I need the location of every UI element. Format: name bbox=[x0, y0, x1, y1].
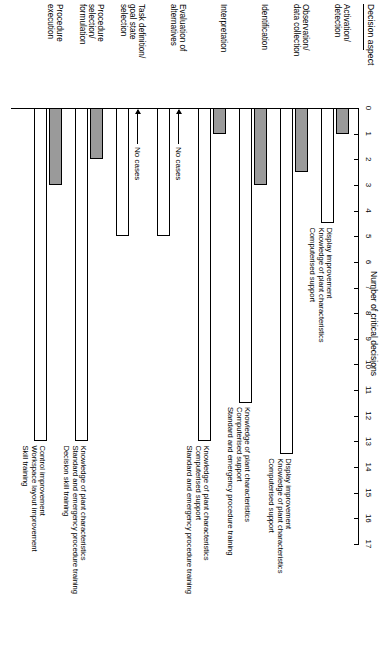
annotation-line: Computerised support bbox=[193, 445, 201, 594]
annotation-line: Computerised support bbox=[267, 458, 275, 573]
category-label: Interpretation bbox=[219, 4, 228, 106]
axis-tick-label: 2 bbox=[364, 157, 373, 161]
category-label-line: detection bbox=[333, 4, 342, 106]
axis-tick bbox=[354, 313, 359, 314]
axis-tick-label: 1 bbox=[364, 131, 373, 135]
annotation-line: Standard and emergency procedure trainin… bbox=[226, 407, 234, 556]
axis-tick bbox=[354, 134, 359, 135]
bar-shaded bbox=[49, 108, 62, 185]
category-label: Activation/detection bbox=[333, 4, 351, 106]
category-label-line: Identification bbox=[260, 4, 269, 106]
category-label: Task definition/goal stateselection bbox=[118, 4, 146, 106]
bar-shaded bbox=[213, 108, 226, 134]
axis-tick bbox=[354, 288, 359, 289]
category-label-line: Evaluation of bbox=[178, 4, 187, 106]
axis-tick-label: 15 bbox=[364, 488, 373, 497]
axis-tick bbox=[354, 211, 359, 212]
axis-tick bbox=[354, 493, 359, 494]
bar-recommendation-annotation: Display improvementKnowledge of plant ch… bbox=[308, 227, 333, 342]
axis-tick bbox=[354, 339, 359, 340]
category-label-line: alternatives bbox=[169, 4, 178, 106]
axis-tick bbox=[354, 518, 359, 519]
annotation-line: Decision skill training bbox=[62, 445, 70, 594]
bar-recommendation-annotation: Display improvementKnowledge of plant ch… bbox=[267, 458, 292, 573]
bar-open bbox=[198, 108, 211, 441]
annotation-line: Skill training bbox=[21, 445, 29, 551]
bar-chart-figure: Decision aspect Activation/detectionObse… bbox=[0, 0, 381, 658]
axis-tick-label: 11 bbox=[364, 386, 373, 394]
category-label-line: Procedure bbox=[55, 4, 64, 106]
value-axis-line bbox=[358, 108, 359, 544]
axis-tick-label: 3 bbox=[364, 183, 373, 187]
axis-tick bbox=[354, 236, 359, 237]
bar-open bbox=[157, 108, 170, 236]
bar-recommendation-annotation: Knowledge of plant characteristicsStanda… bbox=[62, 445, 87, 594]
no-cases-arrow-icon bbox=[178, 110, 179, 144]
no-cases-label: No cases bbox=[174, 147, 183, 180]
annotation-line: Knowledge of plant characteristics bbox=[79, 445, 87, 594]
axis-tick bbox=[354, 364, 359, 365]
bar-open bbox=[34, 108, 47, 441]
annotation-line: Knowledge of plant characteristics bbox=[243, 407, 251, 556]
bar-shaded bbox=[295, 108, 308, 172]
category-label-line: execution bbox=[46, 4, 55, 106]
x-axis-title: Number of critical decisions bbox=[369, 271, 379, 376]
bar-recommendation-annotation: Knowledge of plant characteristicsComput… bbox=[185, 445, 210, 594]
axis-tick bbox=[354, 467, 359, 468]
annotation-line: Knowledge of plant characteristics bbox=[316, 227, 324, 342]
axis-tick bbox=[354, 416, 359, 417]
annotation-line: Knowledge of plant characteristics bbox=[275, 458, 283, 573]
no-cases-label: No cases bbox=[133, 147, 142, 180]
category-label-line: selection bbox=[118, 4, 127, 106]
category-label-line: data collection bbox=[292, 4, 301, 106]
bar-open bbox=[116, 108, 129, 236]
annotation-line: Display improvement bbox=[284, 458, 292, 573]
category-label: Observation/data collection bbox=[292, 4, 310, 106]
category-label-line: Interpretation bbox=[219, 4, 228, 106]
axis-tick-label: 13 bbox=[364, 437, 373, 446]
bar-open bbox=[75, 108, 88, 441]
category-label-column: Activation/detectionObservation/data col… bbox=[0, 0, 381, 108]
axis-tick bbox=[354, 441, 359, 442]
axis-tick bbox=[354, 262, 359, 263]
category-label-line: selection/ bbox=[87, 4, 96, 106]
bar-recommendation-annotation: Knowledge of plant characteristicsComput… bbox=[226, 407, 251, 556]
axis-tick-label: 17 bbox=[364, 540, 373, 549]
annotation-line: Knowledge of plant characteristics bbox=[202, 445, 210, 594]
axis-tick bbox=[354, 390, 359, 391]
axis-tick-label: 0 bbox=[364, 106, 373, 110]
axis-tick-label: 5 bbox=[364, 234, 373, 238]
bar-open bbox=[321, 108, 334, 223]
category-label-line: Task definition/ bbox=[137, 4, 146, 106]
axis-tick-label: 14 bbox=[364, 463, 373, 472]
category-label-line: formulation bbox=[77, 4, 86, 106]
category-label: Procedureexecution bbox=[46, 4, 64, 106]
no-cases-annotation: No cases bbox=[172, 109, 185, 180]
bar-shaded bbox=[336, 108, 349, 134]
annotation-line: Standard and emergency procedure trainin… bbox=[185, 445, 193, 594]
category-label-line: Activation/ bbox=[342, 4, 351, 106]
annotation-line: Display improvement bbox=[325, 227, 333, 342]
bar-open bbox=[239, 108, 252, 403]
bar-shaded bbox=[90, 108, 103, 159]
category-label: Identification bbox=[260, 4, 269, 106]
bar-open bbox=[280, 108, 293, 454]
bar-recommendation-annotation: Control improvementWorkspace layout impr… bbox=[21, 445, 46, 551]
plot-area: 01234567891011121314151617 Display impro… bbox=[13, 108, 353, 544]
no-cases-arrow-icon bbox=[137, 110, 138, 144]
axis-tick bbox=[354, 159, 359, 160]
axis-tick-label: 6 bbox=[364, 260, 373, 264]
annotation-line: Computerised support bbox=[308, 227, 316, 342]
category-label-line: Observation/ bbox=[301, 4, 310, 106]
category-label-line: Procedure bbox=[96, 4, 105, 106]
category-label-line: goal state bbox=[128, 4, 137, 106]
annotation-line: Computerised support bbox=[234, 407, 242, 556]
category-label: Evaluation ofalternatives bbox=[169, 4, 187, 106]
axis-tick bbox=[354, 544, 359, 545]
bar-shaded bbox=[254, 108, 267, 185]
annotation-line: Standard and emergency procedure trainin… bbox=[70, 445, 78, 594]
annotation-line: Control improvement bbox=[38, 445, 46, 551]
axis-tick-label: 4 bbox=[364, 208, 373, 212]
axis-tick-label: 16 bbox=[364, 514, 373, 523]
no-cases-annotation: No cases bbox=[131, 109, 144, 180]
